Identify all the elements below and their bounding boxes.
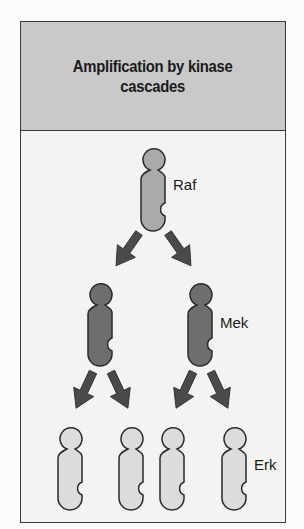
mek-label: Mek (220, 314, 249, 331)
mek-kinase-icon-left (88, 284, 112, 366)
arrow-raf-to-mek-left-icon (107, 227, 148, 272)
arrow-mek-to-erk-2-icon (101, 367, 138, 413)
erk-kinase-icon-1 (58, 428, 82, 510)
arrow-mek-to-erk-4-icon (201, 367, 238, 413)
erk-kinase-icon-2 (119, 428, 143, 510)
raf-label: Raf (173, 176, 197, 193)
erk-label: Erk (254, 456, 277, 473)
arrow-raf-to-mek-right-icon (159, 227, 200, 272)
erk-kinase-icon-3 (160, 428, 184, 510)
raf-kinase-icon (141, 149, 165, 231)
arrow-mek-to-erk-3-icon (166, 367, 203, 413)
mek-kinase-icon-right (188, 284, 212, 366)
erk-kinase-icon-4 (222, 428, 246, 510)
arrow-mek-to-erk-1-icon (66, 367, 103, 413)
kinase-cascade-diagram: Raf Mek Erk (0, 0, 304, 529)
